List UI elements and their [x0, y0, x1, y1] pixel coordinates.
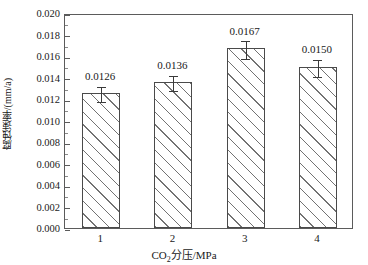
bar-value-label: 0.0136 — [142, 59, 202, 71]
y-axis-tick — [65, 58, 70, 59]
bar — [154, 82, 192, 228]
error-bar-cap-upper — [241, 41, 250, 42]
y-axis-minor-tick — [65, 197, 68, 198]
y-axis-tick — [65, 15, 70, 16]
y-axis-tick — [65, 230, 70, 231]
y-axis-minor-tick — [65, 25, 68, 26]
y-axis-tick-label: 0.000 — [14, 224, 60, 234]
error-bar — [101, 87, 102, 102]
y-axis-tick-label: 0.012 — [14, 95, 60, 105]
y-axis-minor-tick — [65, 90, 68, 91]
error-bar-cap-lower — [97, 102, 106, 103]
x-axis-title-pre: CO — [151, 249, 166, 261]
x-axis-tick-label: 3 — [230, 232, 260, 244]
error-bar — [246, 42, 247, 59]
y-axis-tick — [65, 101, 70, 102]
bar — [299, 67, 337, 228]
x-axis-title-post: 分压/MPa — [171, 249, 217, 261]
y-axis-tick-label: 0.014 — [14, 74, 60, 84]
y-axis-minor-tick — [65, 133, 68, 134]
y-axis-tick-label: 0.010 — [14, 117, 60, 127]
bar-value-label: 0.0167 — [215, 25, 275, 37]
y-axis-tick — [65, 36, 70, 37]
y-axis-minor-tick — [65, 176, 68, 177]
error-bar — [173, 76, 174, 91]
chart-figure: 腐蚀速率/(mm/a) CO2分压/MPa 0.0000.0020.0040.0… — [0, 0, 368, 265]
error-bar-cap-upper — [169, 76, 178, 77]
x-axis-tick-label: 1 — [85, 232, 115, 244]
error-bar-cap-lower — [169, 91, 178, 92]
y-axis-minor-tick — [65, 154, 68, 155]
y-axis-minor-tick — [65, 219, 68, 220]
y-axis-tick — [65, 208, 70, 209]
y-axis-tick-label: 0.006 — [14, 160, 60, 170]
error-bar-cap-upper — [313, 60, 322, 61]
y-axis-minor-tick — [65, 111, 68, 112]
y-axis-tick — [65, 144, 70, 145]
x-axis-title: CO2分压/MPa — [0, 246, 368, 264]
bar-value-label: 0.0126 — [70, 70, 130, 82]
y-axis-tick — [65, 187, 70, 188]
y-axis-tick-label: 0.016 — [14, 52, 60, 62]
y-axis-minor-tick — [65, 68, 68, 69]
error-bar-cap-lower — [241, 59, 250, 60]
y-axis-tick-label: 0.018 — [14, 31, 60, 41]
bar-value-label: 0.0150 — [287, 43, 347, 55]
y-axis-tick-label: 0.002 — [14, 203, 60, 213]
y-axis-tick-label: 0.004 — [14, 181, 60, 191]
y-axis-tick — [65, 165, 70, 166]
error-bar-cap-upper — [97, 87, 106, 88]
y-axis-tick-label: 0.020 — [14, 9, 60, 19]
error-bar — [318, 60, 319, 77]
y-axis-tick — [65, 122, 70, 123]
bar — [82, 93, 120, 228]
y-axis-tick-label: 0.008 — [14, 138, 60, 148]
x-axis-tick-label: 4 — [302, 232, 332, 244]
x-axis-tick-label: 2 — [157, 232, 187, 244]
error-bar-cap-lower — [313, 77, 322, 78]
bar — [227, 48, 265, 228]
y-axis-minor-tick — [65, 47, 68, 48]
